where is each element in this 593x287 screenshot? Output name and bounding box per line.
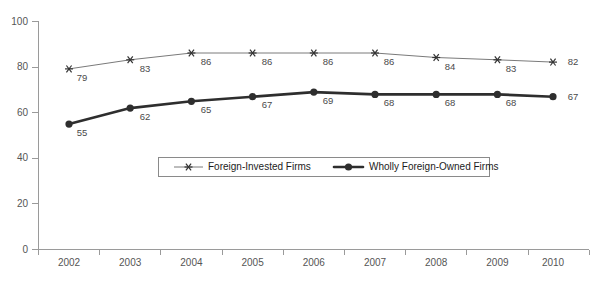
data-label: 68 [506, 97, 517, 108]
x-tick-label-2004: 2004 [180, 257, 203, 268]
y-tick-label: 0 [22, 244, 28, 255]
series-foreign-invested-firms: 79 83 86 86 86 86 84 83 82 [65, 50, 578, 83]
data-label: 86 [384, 56, 395, 67]
chart-canvas: 100 80 60 40 20 0 2002 2003 2004 2005 [0, 0, 593, 287]
data-label: 86 [323, 56, 334, 67]
data-label: 55 [77, 127, 88, 138]
x-tick-label-2007: 2007 [364, 257, 387, 268]
y-tick-marks [32, 22, 39, 250]
data-label: 62 [140, 111, 151, 122]
data-label: 86 [201, 56, 212, 67]
x-tick-label-2010: 2010 [542, 257, 565, 268]
series-wholly-foreign-owned-firms: 55 62 65 67 69 68 68 68 67 [65, 89, 578, 139]
x-tick-labels: 2002 2003 2004 2005 2006 2007 2008 2009 … [58, 257, 565, 268]
y-tick-labels: 100 80 60 40 20 0 [11, 16, 28, 255]
x-tick-label-2005: 2005 [241, 257, 264, 268]
data-label: 65 [201, 104, 212, 115]
x-tick-label-2006: 2006 [303, 257, 326, 268]
data-label: 83 [140, 63, 151, 74]
data-label: 68 [445, 97, 456, 108]
data-label: 67 [262, 99, 273, 110]
data-label: 68 [384, 97, 395, 108]
chart-legend: Foreign-Invested Firms Wholly Foreign-Ow… [159, 158, 499, 177]
line-chart: 100 80 60 40 20 0 2002 2003 2004 2005 [0, 0, 593, 287]
legend-label: Wholly Foreign-Owned Firms [369, 161, 498, 172]
data-label: 67 [568, 91, 579, 102]
x-tick-label-2003: 2003 [119, 257, 142, 268]
data-label: 83 [506, 63, 517, 74]
y-tick-label: 40 [17, 152, 29, 163]
data-label: 82 [568, 56, 579, 67]
x-tick-label-2002: 2002 [58, 257, 81, 268]
y-tick-label: 80 [17, 61, 29, 72]
circle-marker-icon [345, 163, 352, 170]
data-label: 79 [77, 72, 88, 83]
data-label: 86 [262, 56, 273, 67]
data-label: 69 [323, 95, 334, 106]
x-tick-label-2009: 2009 [486, 257, 509, 268]
x-tick-label-2008: 2008 [425, 257, 448, 268]
x-tick-marks [39, 250, 590, 256]
legend-label: Foreign-Invested Firms [208, 161, 311, 172]
series-data-labels: 55 62 65 67 69 68 68 68 67 [77, 91, 579, 138]
y-tick-label: 100 [11, 16, 28, 27]
y-tick-label: 60 [17, 107, 29, 118]
data-label: 84 [445, 61, 456, 72]
y-tick-label: 20 [17, 198, 29, 209]
